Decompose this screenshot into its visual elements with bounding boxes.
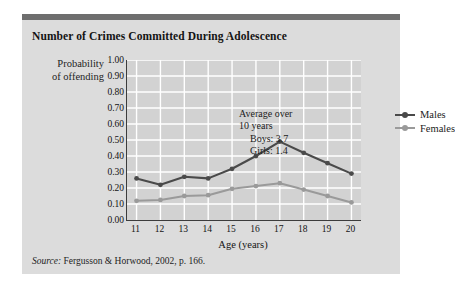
- series-line-females: [137, 183, 352, 202]
- chart-legend: MalesFemales: [395, 108, 455, 135]
- y-tick-label: 0.70: [107, 103, 124, 113]
- x-tick-label: 16: [250, 224, 260, 235]
- x-tick-label: 11: [131, 224, 140, 235]
- legend-label: Males: [420, 108, 446, 122]
- source-label: Source:: [32, 256, 61, 266]
- data-point-females: [182, 194, 187, 199]
- x-tick-label: 19: [322, 224, 332, 235]
- x-tick-label: 13: [179, 224, 189, 235]
- y-tick-label: 0.40: [107, 151, 124, 161]
- legend-item-females[interactable]: Females: [395, 122, 455, 136]
- annotation-line: Average over: [239, 108, 292, 120]
- data-point-females: [349, 200, 354, 205]
- page-title: Number of Crimes Committed During Adoles…: [32, 30, 287, 42]
- y-axis-title-line-2: of offending: [22, 71, 104, 84]
- data-point-females: [277, 181, 282, 186]
- legend-swatch-icon: [395, 123, 415, 133]
- data-point-females: [301, 187, 306, 192]
- y-tick-label: 0.00: [107, 215, 124, 225]
- legend-marker-icon: [402, 125, 408, 131]
- annotation-line: 10 years: [239, 120, 292, 132]
- data-point-females: [206, 193, 211, 198]
- data-point-females: [230, 186, 235, 191]
- chart-annotation: Average over10 yearsBoys: 3.7Girls: 1.4: [239, 108, 292, 158]
- data-point-males: [158, 182, 163, 187]
- y-tick-label: 0.60: [107, 119, 124, 129]
- y-tick-label: 0.10: [107, 199, 124, 209]
- source-text: Fergusson & Horwood, 2002, p. 166.: [61, 256, 205, 266]
- y-tick-label: 0.50: [107, 135, 124, 145]
- legend-item-males[interactable]: Males: [395, 108, 455, 122]
- y-tick-label: 0.20: [107, 183, 124, 193]
- annotation-line: Boys: 3.7: [239, 133, 292, 145]
- data-point-males: [206, 176, 211, 181]
- data-point-males: [230, 166, 235, 171]
- legend-marker-icon: [402, 112, 408, 118]
- x-tick-label: 18: [298, 224, 308, 235]
- data-point-males: [325, 161, 330, 166]
- x-tick-label: 17: [274, 224, 284, 235]
- data-point-females: [158, 198, 163, 203]
- legend-swatch-icon: [395, 110, 415, 120]
- y-tick-label: 0.90: [107, 71, 124, 81]
- source-note: Source: Fergusson & Horwood, 2002, p. 16…: [32, 256, 205, 266]
- x-axis-tick-labels: 11121314151617181920: [126, 224, 360, 238]
- y-tick-label: 0.80: [107, 87, 124, 97]
- legend-label: Females: [420, 122, 455, 136]
- y-axis-title: Probability of offending: [22, 58, 104, 83]
- annotation-line: Girls: 1.4: [239, 145, 292, 157]
- data-point-males: [134, 176, 139, 181]
- data-point-males: [301, 150, 306, 155]
- data-point-females: [254, 184, 259, 189]
- x-tick-label: 14: [202, 224, 212, 235]
- y-axis-title-line-1: Probability: [22, 58, 104, 71]
- x-tick-label: 20: [346, 224, 356, 235]
- chart-card: Number of Crimes Committed During Adoles…: [22, 14, 400, 274]
- data-point-females: [325, 194, 330, 199]
- x-axis-title: Age (years): [126, 239, 360, 250]
- plot-area: Average over10 yearsBoys: 3.7Girls: 1.4 …: [126, 60, 361, 221]
- data-point-males: [349, 171, 354, 176]
- data-point-males: [182, 174, 187, 179]
- data-point-females: [134, 198, 139, 203]
- y-tick-label: 0.30: [107, 167, 124, 177]
- x-tick-label: 12: [155, 224, 165, 235]
- x-tick-label: 15: [226, 224, 236, 235]
- card-header-bar: [22, 14, 400, 20]
- y-tick-label: 1.00: [107, 55, 124, 65]
